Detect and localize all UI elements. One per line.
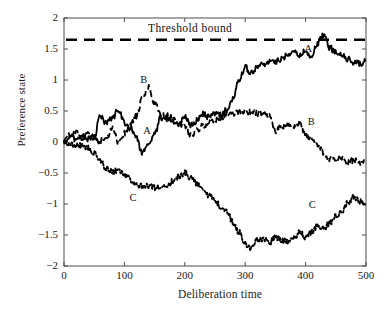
curve-tag-b-0: B [140, 74, 147, 85]
x-tick-label: 500 [354, 269, 378, 281]
x-axis-label-text: Deliberation time [130, 288, 262, 300]
x-tick-label: 200 [173, 269, 197, 281]
y-tick-label: 2 [20, 11, 58, 23]
x-axis-label: Deliberation time [0, 288, 392, 300]
y-tick-label: 1 [20, 73, 58, 85]
curve-tag-a-1: A [143, 125, 151, 136]
y-tick-label: 0 [20, 135, 58, 147]
x-tick-label: 400 [294, 269, 318, 281]
preference-state-chart [0, 0, 392, 311]
series-line-B [64, 85, 365, 166]
y-tick-label: −1.5 [20, 228, 58, 240]
y-tick-label: 0.5 [20, 104, 58, 116]
curve-tag-c-2: C [129, 192, 136, 203]
curve-tag-c-5: C [309, 199, 316, 210]
plot-canvas [0, 0, 392, 311]
y-tick-label: 1.5 [20, 42, 58, 54]
series-line-C [64, 141, 365, 251]
threshold-bound-label: Threshold bound [148, 22, 232, 34]
curve-tag-b-4: B [308, 116, 315, 127]
curve-tag-a-3: A [305, 43, 313, 54]
y-tick-label: −2 [20, 259, 58, 271]
y-tick-label: −1 [20, 197, 58, 209]
y-tick-label: −0.5 [20, 166, 58, 178]
x-tick-label: 100 [112, 269, 136, 281]
x-tick-label: 300 [233, 269, 257, 281]
